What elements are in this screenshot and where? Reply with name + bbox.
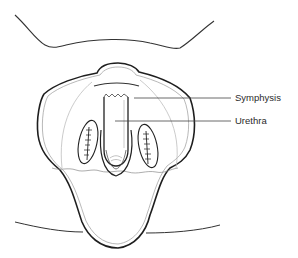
- abdomen-contour: [15, 15, 214, 49]
- right-thigh-contour: [146, 225, 220, 233]
- label-symphysis: Symphysis: [235, 93, 281, 103]
- urethra-top-sutures: [104, 94, 128, 97]
- label-urethra: Urethra: [235, 116, 267, 126]
- right-fold-arc: [140, 80, 177, 168]
- anatomy-drawing: [0, 0, 298, 258]
- meatus-lines: [110, 156, 122, 161]
- diagram-canvas: Symphysis Urethra: [0, 0, 298, 258]
- symphysis-arc: [94, 83, 139, 86]
- left-thigh-contour: [15, 222, 83, 232]
